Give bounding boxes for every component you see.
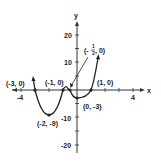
tick-label-x-neg4: -4 — [17, 94, 23, 101]
pointer-line — [71, 57, 88, 86]
y-axis-arrow-up — [75, 21, 79, 26]
x-axis-arrow-right — [140, 88, 145, 92]
tick-label-y-neg10: -10 — [61, 115, 71, 122]
label-point-neg-half-0: (- 1 2 , 0) — [84, 43, 105, 56]
curve-arrow-right — [96, 54, 100, 60]
label-point-0-neg3: (0, -3) — [83, 103, 102, 111]
y-axis-label: y — [74, 12, 78, 20]
label-point-neg1-0: (-1, 0) — [45, 79, 64, 87]
svg-text:(-: (- — [84, 47, 89, 55]
svg-text:, 0): , 0) — [95, 47, 105, 55]
graph: -4 4 20 10 -10 -20 x y (-3, 0) (-1, 0) (… — [0, 0, 161, 163]
label-point-neg2-neg9: (-2, -9) — [37, 120, 58, 128]
tick-label-y-neg20: -20 — [61, 142, 71, 149]
tick-label-y-10: 10 — [64, 59, 72, 66]
curve-arrow-left — [32, 76, 36, 81]
pointer-arrowhead — [70, 83, 74, 88]
label-point-1-0: (1, 0) — [97, 79, 113, 87]
label-point-neg3-0: (-3, 0) — [6, 80, 25, 88]
x-axis-label: x — [147, 87, 151, 94]
x-axis-arrow-left — [12, 88, 17, 92]
tick-label-x-4: 4 — [131, 94, 135, 101]
tick-label-y-20: 20 — [64, 32, 72, 39]
